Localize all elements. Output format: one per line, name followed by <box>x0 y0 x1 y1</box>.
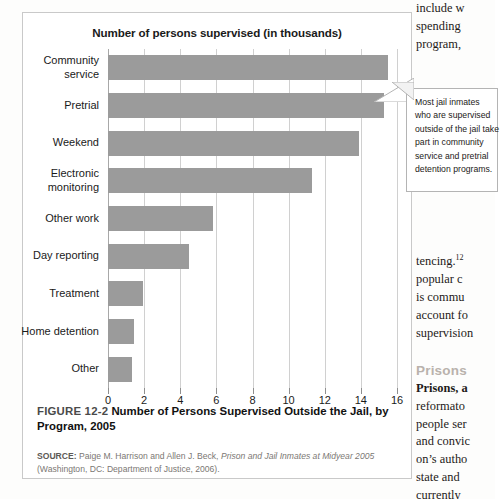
category-label-other-work: Other work <box>0 212 99 226</box>
body-line: popular c <box>416 271 495 289</box>
body-line: and convic <box>416 433 495 451</box>
category-label-community-service: Community service <box>0 54 99 81</box>
bar-home-detention <box>108 319 134 344</box>
body-line: is commu <box>416 289 495 307</box>
bar-row: Other work <box>108 206 397 231</box>
body-line: program, <box>416 36 495 54</box>
bar-treatment <box>108 281 143 306</box>
callout-fold-corner <box>392 82 414 100</box>
body-line: tencing.12 <box>416 249 495 271</box>
column-gap <box>416 343 495 361</box>
body-line: supervision <box>416 325 495 343</box>
source-authors: Paige M. Harrison and Allen J. Beck, <box>79 451 218 461</box>
category-label-day-reporting: Day reporting <box>0 249 99 263</box>
body-line: include w <box>416 0 495 18</box>
callout-box: Most jail inmates who are supervised out… <box>406 88 498 192</box>
bar-row: Home detention <box>108 319 397 344</box>
body-line: people ser <box>416 416 495 434</box>
bar-row: Electronic monitoring <box>108 168 397 193</box>
bar-row: Weekend <box>108 131 397 156</box>
body-line: account fo <box>416 307 495 325</box>
source-label: SOURCE: <box>37 451 77 461</box>
bar-weekend <box>108 131 359 156</box>
body-line: currently <box>416 487 495 499</box>
chart-title: Number of persons supervised (in thousan… <box>23 26 411 39</box>
bar-other-work <box>108 206 213 231</box>
category-label-other: Other <box>0 362 99 376</box>
category-label-home-detention: Home detention <box>0 325 99 339</box>
body-line: state and <box>416 469 495 487</box>
callout-text: Most jail inmates who are supervised out… <box>415 96 504 176</box>
category-label-electronic-monitoring: Electronic monitoring <box>0 167 99 194</box>
body-line: spending <box>416 18 495 36</box>
bar-row: Pretrial <box>108 93 397 118</box>
body-line: on’s autho <box>416 451 495 469</box>
section-heading-prisons: Prisons <box>416 360 495 380</box>
bar-row: Community service <box>108 55 397 80</box>
figure-box: Number of persons supervised (in thousan… <box>22 12 412 479</box>
body-text-column: include w spending program, tencing.12 p… <box>416 0 495 499</box>
category-label-weekend: Weekend <box>0 136 99 150</box>
bar-pretrial <box>108 93 384 118</box>
footnote-marker: 12 <box>456 253 464 262</box>
bar-other <box>108 357 132 382</box>
bar-electronic-monitoring <box>108 168 312 193</box>
bar-row: Treatment <box>108 281 397 306</box>
body-line: reformato <box>416 398 495 416</box>
category-label-treatment: Treatment <box>0 287 99 301</box>
bar-row: Day reporting <box>108 244 397 269</box>
body-line: Prisons, a <box>416 380 495 398</box>
bar-community-service <box>108 55 388 80</box>
source-publisher: (Washington, DC: Department of Justice, … <box>37 464 220 474</box>
body-line-text: tencing. <box>416 255 456 269</box>
category-label-pretrial: Pretrial <box>0 99 99 113</box>
source-title: Prison and Jail Inmates at Midyear 2005 <box>221 451 374 461</box>
bar-row: Other <box>108 357 397 382</box>
figure-number: FIGURE 12-2 <box>37 405 108 417</box>
figure-source: SOURCE: Paige M. Harrison and Allen J. B… <box>37 450 399 476</box>
figure-caption: FIGURE 12-2 Number of Persons Supervised… <box>37 404 399 434</box>
bar-chart-plot-area: 0246810121416Community servicePretrialWe… <box>108 49 397 388</box>
bar-day-reporting <box>108 244 189 269</box>
